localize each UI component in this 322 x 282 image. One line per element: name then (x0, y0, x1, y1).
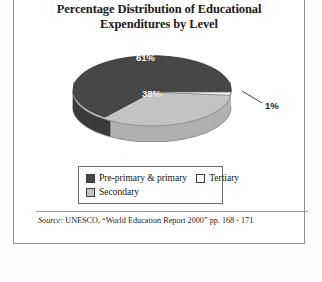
light-swatch-icon (86, 188, 95, 197)
source-divider (36, 211, 308, 212)
legend-item-pre-primary-primary: Pre-primary & primary (86, 172, 187, 184)
leader-line-tertiary (242, 91, 264, 105)
legend-item-secondary: Secondary (86, 186, 139, 198)
source-citation: Source: UNESCO, “World Education Report … (38, 216, 253, 225)
pie-label-primary: 61% (136, 52, 155, 63)
figure-container: Percentage Distribution of Educational E… (13, 0, 305, 244)
source-keyword: Source: (38, 216, 63, 225)
legend-row-1: Pre-primary & primary Tertiary (86, 172, 215, 184)
source-text: UNESCO, “World Education Report 2000” pp… (63, 216, 253, 225)
legend-item-tertiary: Tertiary (196, 172, 239, 184)
legend-row-2: Secondary (86, 186, 215, 198)
chart-legend: Pre-primary & primary Tertiary Secondary (78, 166, 223, 204)
pie-label-secondary: 38% (142, 88, 161, 99)
pie-graphic: 61% 38% (66, 42, 238, 142)
dark-swatch-icon (86, 174, 95, 183)
title-line-1: Percentage Distribution of Educational (14, 2, 304, 17)
page-title: Percentage Distribution of Educational E… (14, 2, 304, 32)
legend-label-secondary: Secondary (99, 186, 139, 198)
legend-label-pre-primary-primary: Pre-primary & primary (99, 172, 187, 184)
pie-label-tertiary: 1% (265, 100, 279, 111)
title-line-2: Expenditures by Level (14, 17, 304, 32)
legend-label-tertiary: Tertiary (209, 172, 239, 184)
white-swatch-icon (196, 174, 205, 183)
pie-chart: 61% 38% 1% (14, 42, 306, 154)
